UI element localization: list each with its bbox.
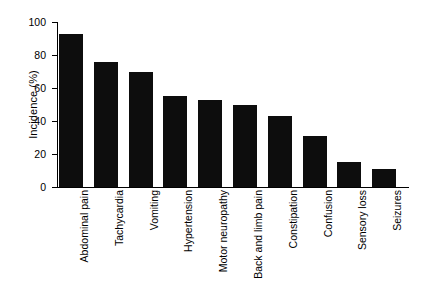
y-axis-tick-label: 0 [10, 182, 46, 192]
bar [163, 96, 187, 187]
bar [94, 62, 118, 187]
x-axis-category-label: Constipation [286, 190, 300, 298]
x-axis-category-label: Back and limb pain [251, 190, 265, 298]
y-axis-title: Incidence (%) [22, 22, 44, 187]
y-axis-tick-label: 20 [10, 149, 46, 159]
x-axis-category-label: Motor neuropathy [216, 190, 230, 298]
y-axis-tick-label: 80 [10, 50, 46, 60]
x-axis-category-label: Hypertension [181, 190, 195, 298]
bar [198, 100, 222, 187]
bar [268, 116, 292, 187]
x-axis-category-labels: Abdominal painTachycardiaVomitingHyperte… [57, 190, 409, 300]
x-axis-category-label: Confusion [321, 190, 335, 298]
bar [337, 162, 361, 187]
bar [372, 169, 396, 187]
x-axis-category-label: Seizures [390, 190, 404, 298]
bar [59, 34, 83, 187]
bar [129, 72, 153, 188]
bar-chart-figure: Incidence (%) 020406080100 Abdominal pai… [0, 0, 426, 301]
y-axis-tick-label: 60 [10, 83, 46, 93]
x-axis-category-label: Sensory loss [355, 190, 369, 298]
bar [303, 136, 327, 187]
y-axis-tick-label: 100 [10, 17, 46, 27]
x-axis-category-label: Abdominal pain [77, 190, 91, 298]
bar [233, 105, 257, 188]
plot-area [57, 22, 409, 187]
x-axis-line [57, 187, 409, 188]
x-axis-category-label: Tachycardia [112, 190, 126, 298]
x-axis-category-label: Vomiting [147, 190, 161, 298]
y-axis-tick-label: 40 [10, 116, 46, 126]
